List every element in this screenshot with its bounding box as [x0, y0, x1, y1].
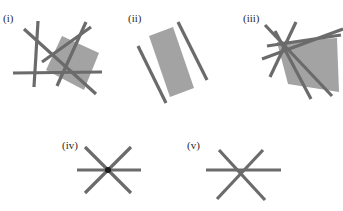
fig-iv: (iv)	[62, 139, 141, 193]
fig-ii: (ii)	[128, 12, 207, 103]
fig-v-label: (v)	[187, 139, 200, 152]
figure-board: (i)(ii)(iii)(iv)(v)	[0, 0, 343, 211]
fig-v: (v)	[187, 139, 281, 200]
line-arrangements-diagram: (i)(ii)(iii)(iv)(v)	[0, 0, 343, 211]
fig-i: (i)	[3, 12, 102, 94]
fig-ii-label: (ii)	[128, 12, 142, 25]
fig-iii-label: (iii)	[243, 12, 260, 25]
fig-iv-label: (iv)	[62, 139, 78, 152]
fig-i-shaded-region	[46, 36, 99, 90]
fig-i-line-4	[13, 72, 102, 73]
fig-i-line-2	[34, 21, 38, 87]
fig-iii: (iii)	[243, 12, 343, 99]
fig-i-label: (i)	[3, 12, 14, 25]
fig-iv-concurrency-point	[105, 167, 111, 173]
